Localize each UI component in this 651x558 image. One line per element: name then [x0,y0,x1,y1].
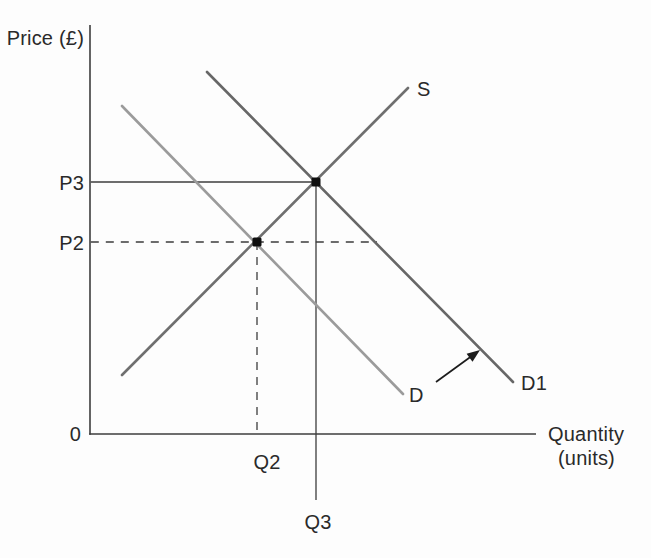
q2-label: Q2 [253,451,280,473]
supply-curve-label: S [417,78,431,100]
equilibrium-dot-p3-q3 [312,178,321,187]
shift-arrowhead-icon [467,350,480,362]
shift-arrow-shaft [436,357,471,383]
demand-curve-d [122,106,403,394]
equilibrium-dot-p2-q2 [253,238,262,247]
supply-demand-diagram: Price (£) 0 P3 P2 Q2 Q3 S D D1 Quantity … [0,0,651,558]
x-axis-title-line2: (units) [558,447,615,469]
p2-label: P2 [59,232,84,254]
origin-label: 0 [70,423,81,445]
x-axis-title-line1: Quantity [548,423,624,445]
demand-shifted-curve-label: D1 [521,372,547,394]
figure-container: Price (£) 0 P3 P2 Q2 Q3 S D D1 Quantity … [0,0,651,558]
y-axis-title: Price (£) [7,27,84,49]
p3-label: P3 [59,172,84,194]
demand-curve-d1 [207,72,513,382]
demand-curve-label: D [409,384,424,406]
q3-label: Q3 [304,511,331,533]
